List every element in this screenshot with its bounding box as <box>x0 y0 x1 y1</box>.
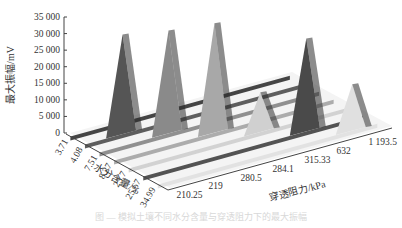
x-tick-label: 1 193.5 <box>368 137 397 147</box>
z-tick-label: 10 000 <box>34 95 60 105</box>
y-tick-label: 34.99 <box>138 185 157 209</box>
x-tick-label: 219 <box>208 181 223 191</box>
z-tick-label: 30 000 <box>34 29 60 39</box>
z-axis-title: 最大振幅/mV <box>4 45 16 104</box>
figure-caption: 图 — 模拟土壤不同水分含量与穿透阻力下的最大振幅 <box>0 210 402 223</box>
x-tick-label: 210.25 <box>176 190 202 200</box>
x-tick-label: 315.33 <box>304 155 330 165</box>
x-axis-title: 穿透阻力/kPa <box>268 177 328 203</box>
z-tick-label: 20 000 <box>34 62 60 72</box>
chart-3d: 05 00010 00015 00020 00025 00030 00035 0… <box>0 0 402 228</box>
x-tick-label: 280.5 <box>240 173 262 183</box>
z-tick-label: 25 000 <box>34 45 60 55</box>
y-tick-label: 3.71 <box>53 137 70 157</box>
z-tick-label: 35 000 <box>34 12 60 22</box>
x-tick-label: 284.1 <box>272 164 294 174</box>
y-tick-label: 4.08 <box>68 145 85 165</box>
z-tick-label: 0 <box>55 128 60 138</box>
z-ticks: 05 00010 00015 00020 00025 00030 00035 0… <box>34 12 67 138</box>
x-tick-label: 632 <box>336 146 351 156</box>
z-tick-label: 5 000 <box>39 111 61 121</box>
z-tick-label: 15 000 <box>34 78 60 88</box>
